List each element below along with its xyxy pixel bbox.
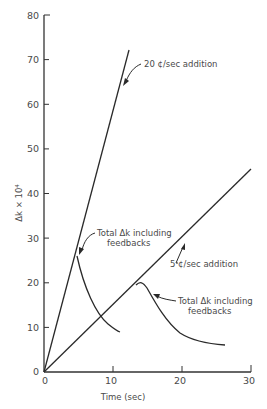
annotation-feedback-1-line1: Total Δk including — [96, 228, 172, 238]
arrowhead-icon — [181, 243, 185, 250]
x-axis-label: Time (sec) — [100, 392, 145, 402]
y-tick-label: 60 — [27, 99, 39, 110]
y-tick-label: 10 — [27, 322, 39, 333]
annotation-5-cents: 5 ¢/sec addition — [170, 259, 238, 269]
annotation-feedback-1-line2: feedbacks — [107, 238, 151, 248]
x-tick-label: 0 — [42, 375, 48, 386]
annotation-20-cents: 20 ¢/sec addition — [144, 59, 217, 69]
y-tick-label: 70 — [27, 54, 39, 65]
y-tick-labels: 0 10 20 30 40 50 60 70 80 — [27, 10, 39, 378]
line-5-cents-per-sec — [44, 169, 251, 372]
series-lines — [44, 50, 251, 372]
annotation-feedback-2-line1: Total Δk including — [177, 296, 253, 306]
y-tick-label: 50 — [27, 143, 39, 154]
feedback-curve-fast — [77, 256, 120, 332]
y-tick-label: 30 — [27, 233, 39, 244]
annotation-leaders — [82, 64, 183, 301]
arrowhead-icon — [153, 294, 160, 299]
arrowhead-icon — [123, 78, 129, 86]
y-ticks — [44, 15, 50, 327]
x-tick-label: 20 — [174, 375, 186, 386]
x-tick-label: 10 — [105, 375, 117, 386]
y-tick-label: 20 — [27, 277, 39, 288]
x-tick-label: 30 — [243, 375, 255, 386]
annotation-feedback-2-line2: feedbacks — [188, 306, 232, 316]
x-tick-labels: 0 10 20 30 — [42, 375, 255, 386]
x-ticks — [113, 365, 251, 372]
y-tick-label: 80 — [27, 10, 39, 21]
arrowhead-icon — [79, 247, 84, 255]
y-tick-label: 0 — [33, 366, 39, 377]
line-20-cents-per-sec — [44, 50, 129, 372]
y-axis-label: Δk × 10⁴ — [14, 184, 24, 222]
reactivity-chart: 0 10 20 30 40 50 60 70 80 0 10 20 30 Tim… — [0, 0, 267, 409]
y-tick-label: 40 — [27, 188, 39, 199]
